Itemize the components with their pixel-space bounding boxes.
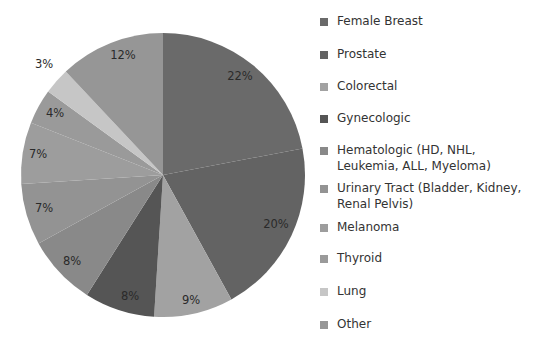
data-label: 12%	[110, 48, 136, 62]
data-label: 22%	[227, 69, 253, 83]
legend-swatch-icon	[320, 51, 328, 59]
legend-label: Female Breast	[337, 13, 527, 29]
legend-swatch-icon	[320, 255, 328, 263]
pie-chart: 22%20%9%8%8%7%7%4%3%12%	[0, 0, 330, 337]
legend-item: Female Breast	[320, 13, 527, 29]
legend-label: Other	[337, 316, 527, 332]
legend-item: Lung	[320, 283, 527, 299]
legend-label: Urinary Tract (Bladder, Kidney, Renal Pe…	[337, 180, 527, 212]
data-label: 9%	[182, 293, 200, 307]
pie-slices	[21, 33, 305, 317]
legend-label: Lung	[337, 283, 527, 299]
data-label: 20%	[263, 217, 289, 231]
legend-swatch-icon	[320, 288, 328, 296]
legend-label: Colorectal	[337, 78, 527, 94]
legend-label: Thyroid	[337, 250, 527, 266]
legend-item: Other	[320, 316, 527, 332]
data-label: 4%	[46, 106, 64, 120]
data-label: 8%	[121, 289, 139, 303]
data-label: 8%	[63, 254, 81, 268]
legend-swatch-icon	[320, 115, 328, 123]
data-label: 7%	[35, 201, 53, 215]
legend-item: Gynecologic	[320, 110, 527, 126]
legend-swatch-icon	[320, 185, 328, 193]
legend-swatch-icon	[320, 224, 328, 232]
legend-item: Urinary Tract (Bladder, Kidney, Renal Pe…	[320, 180, 527, 212]
legend-label: Melanoma	[337, 219, 527, 235]
legend-label: Hematologic (HD, NHL, Leukemia, ALL, Mye…	[337, 142, 527, 174]
legend-swatch-icon	[320, 18, 328, 26]
data-label: 7%	[29, 147, 47, 161]
legend-swatch-icon	[320, 321, 328, 329]
legend-label: Gynecologic	[337, 110, 527, 126]
legend-swatch-icon	[320, 83, 328, 91]
legend-item: Hematologic (HD, NHL, Leukemia, ALL, Mye…	[320, 142, 527, 174]
legend-item: Colorectal	[320, 78, 527, 94]
legend-item: Thyroid	[320, 250, 527, 266]
data-label: 3%	[35, 57, 53, 71]
legend-label: Prostate	[337, 46, 527, 62]
legend-swatch-icon	[320, 147, 328, 155]
legend-item: Prostate	[320, 46, 527, 62]
legend-item: Melanoma	[320, 219, 527, 235]
